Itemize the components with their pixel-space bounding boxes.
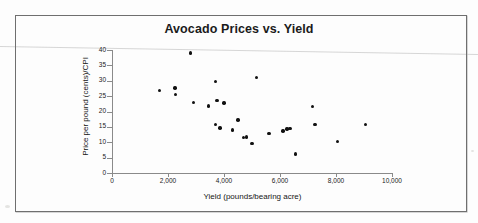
y-axis-title: Price per pound (cents)/CPI	[81, 32, 90, 182]
y-axis-title-wrap: Price per pound (cents)/CPI	[78, 45, 92, 175]
chart-title: Avocado Prices vs. Yield	[0, 22, 478, 36]
scanned-page: Avocado Prices vs. Yield 051015202530354…	[0, 0, 478, 223]
x-axis-title: Yield (pounds/bearing acre)	[112, 192, 393, 201]
scan-speck	[5, 205, 10, 208]
scan-speck	[471, 150, 474, 152]
